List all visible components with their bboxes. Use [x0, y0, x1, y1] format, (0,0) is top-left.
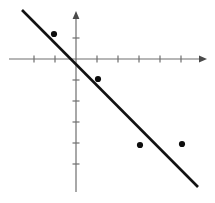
data-point — [179, 141, 185, 147]
plot-canvas — [0, 0, 215, 203]
y-axis-arrow-icon — [73, 11, 80, 19]
data-point — [137, 142, 143, 148]
data-point — [95, 76, 101, 82]
data-point-series — [51, 31, 185, 148]
scatter-plot-figure — [0, 0, 215, 203]
x-axis-group — [9, 56, 207, 63]
data-point — [51, 31, 57, 37]
x-axis-arrow-icon — [199, 56, 207, 63]
trend-line — [22, 10, 198, 187]
